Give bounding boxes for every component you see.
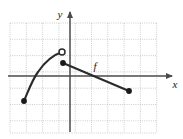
figure-container: y x f xyxy=(0,0,183,139)
closed-endpoint-line-right xyxy=(126,88,132,94)
open-endpoint-curve-right xyxy=(59,49,65,55)
closed-endpoint-line-left xyxy=(60,60,66,66)
y-axis-label: y xyxy=(57,8,63,20)
closed-endpoint-curve-left xyxy=(21,98,27,104)
x-axis-label: x xyxy=(172,78,178,90)
function-graph: y x f xyxy=(0,0,183,139)
